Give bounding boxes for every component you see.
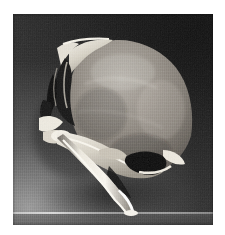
page-root <box>0 0 225 235</box>
film-grain <box>13 14 213 225</box>
specimen-photograph <box>13 14 213 225</box>
specimen-illustration <box>13 14 213 225</box>
